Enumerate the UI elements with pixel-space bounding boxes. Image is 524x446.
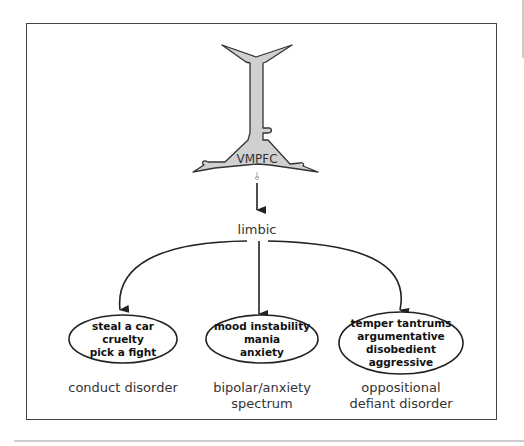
page-bottom-rule <box>14 440 524 442</box>
symptom-item: anxiety <box>207 346 317 359</box>
disorder-odd: oppositional defiant disorder <box>346 380 456 412</box>
symptom-item: disobedient <box>346 343 456 356</box>
symptoms-conduct: steal a car cruelty pick a fight <box>73 320 173 359</box>
symptom-item: temper tantrums <box>346 317 456 330</box>
vmpfc-label: VMPFC <box>207 151 307 167</box>
arrow-to-odd <box>268 241 401 310</box>
disorder-bipolar: bipolar/anxiety spectrum <box>212 380 312 412</box>
arrow-to-conduct <box>120 241 247 310</box>
symptom-item: argumentative <box>346 330 456 343</box>
symptom-item: cruelty <box>73 333 173 346</box>
symptoms-odd: temper tantrums argumentative disobedien… <box>346 317 456 369</box>
symptom-item: pick a fight <box>73 346 173 359</box>
symptoms-bipolar: mood instability mania anxiety <box>207 320 317 359</box>
disorder-conduct: conduct disorder <box>53 380 193 396</box>
symptom-item: steal a car <box>73 320 173 333</box>
symptom-item: mood instability <box>207 320 317 333</box>
limbic-label: limbic <box>217 222 297 238</box>
symptom-item: mania <box>207 333 317 346</box>
symptom-item: aggressive <box>346 356 456 369</box>
